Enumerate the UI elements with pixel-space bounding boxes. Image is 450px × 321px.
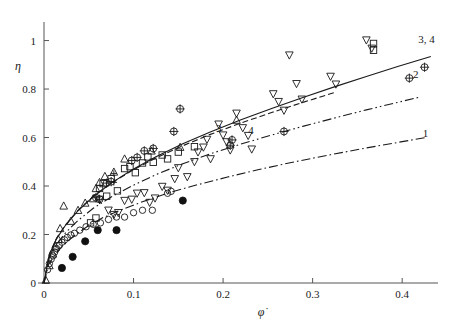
- y-axis-label: η: [15, 59, 21, 73]
- marker-circle-open: [90, 221, 96, 227]
- chart-figure: 00.10.20.30.4 00.20.40.60.81 3, 42134 φ̇…: [0, 0, 450, 321]
- scatter-plot: 00.10.20.30.4 00.20.40.60.81 3, 42134 φ̇…: [0, 0, 450, 321]
- marker-circle-crossed: [149, 144, 158, 153]
- curve-2: [44, 97, 420, 283]
- marker-square-open: [370, 40, 376, 46]
- y-tick-label: 0.8: [22, 83, 36, 95]
- marker-triangle-down-open: [171, 176, 179, 183]
- x-tick-label: 0: [41, 288, 47, 300]
- curve-3: [44, 92, 335, 283]
- curve-label: 1: [423, 127, 429, 139]
- marker-circle-crossed: [227, 135, 236, 144]
- marker-circle-open: [130, 209, 136, 215]
- x-tick-label: 0.3: [306, 288, 320, 300]
- series-square-open: [87, 40, 376, 226]
- marker-triangle-down-open: [248, 146, 256, 153]
- marker-circle-open: [44, 266, 50, 272]
- x-axis-ticks: 00.10.20.30.4: [41, 278, 409, 300]
- curve-label: 3, 4: [418, 33, 435, 45]
- curve-label: 4: [248, 124, 254, 136]
- marker-circle-filled: [179, 197, 186, 204]
- x-axis-label: φ̇: [258, 305, 269, 319]
- marker-square-open: [175, 149, 181, 155]
- marker-triangle-down-open: [363, 37, 371, 44]
- marker-square-open: [132, 169, 138, 175]
- marker-square-open: [114, 188, 120, 194]
- marker-triangle-down-open: [368, 45, 376, 52]
- axes-group: [38, 22, 438, 283]
- marker-triangle-up-open: [60, 202, 68, 209]
- marker-triangle-down-open: [269, 91, 277, 98]
- marker-triangle-down-open: [239, 125, 247, 132]
- marker-circle-open: [97, 220, 103, 226]
- curve-annotations: 3, 42134: [216, 33, 435, 139]
- y-tick-label: 0.4: [22, 180, 36, 192]
- marker-circle-filled: [58, 264, 65, 271]
- curve-4: [44, 57, 431, 283]
- marker-triangle-down-open: [183, 174, 191, 181]
- marker-triangle-down-open: [293, 81, 301, 88]
- marker-circle-filled: [69, 253, 76, 260]
- marker-circle-filled: [94, 227, 101, 234]
- y-tick-label: 0.6: [22, 132, 36, 144]
- marker-circle-filled: [82, 238, 89, 245]
- marker-triangle-down-open: [175, 165, 183, 172]
- x-tick-label: 0.4: [395, 288, 409, 300]
- series-down-triangle: [96, 37, 376, 219]
- x-tick-label: 0.1: [127, 288, 141, 300]
- y-tick-label: 0.2: [22, 229, 36, 241]
- marker-triangle-down-open: [140, 190, 148, 197]
- data-markers: [42, 37, 429, 283]
- marker-circle-open: [139, 207, 145, 213]
- curve-label: 3: [216, 122, 222, 134]
- marker-triangle-down-open: [207, 156, 215, 163]
- marker-triangle-down-open: [280, 107, 288, 114]
- marker-triangle-up-open: [81, 199, 89, 206]
- marker-triangle-down-open: [327, 73, 335, 80]
- marker-circle-crossed: [169, 127, 178, 136]
- marker-triangle-down-open: [121, 197, 129, 204]
- y-tick-label: 0: [31, 277, 37, 289]
- y-axis-ticks: 00.20.40.60.81: [22, 35, 49, 289]
- marker-circle-crossed: [420, 63, 429, 72]
- marker-circle-crossed: [176, 104, 185, 113]
- marker-circle-filled: [113, 227, 120, 234]
- marker-circle-open: [105, 216, 111, 222]
- marker-triangle-down-open: [286, 52, 294, 59]
- marker-triangle-down-open: [191, 159, 199, 166]
- marker-circle-crossed: [279, 127, 288, 136]
- y-tick-label: 1: [31, 35, 37, 47]
- marker-circle-open: [121, 214, 127, 220]
- series-crossed-circle: [91, 63, 429, 204]
- curve-label: 2: [413, 68, 419, 80]
- curve-1: [44, 138, 425, 283]
- x-tick-label: 0.2: [216, 288, 230, 300]
- marker-triangle-down-open: [128, 196, 136, 203]
- model-curves: [44, 57, 431, 283]
- marker-circle-open: [149, 207, 155, 213]
